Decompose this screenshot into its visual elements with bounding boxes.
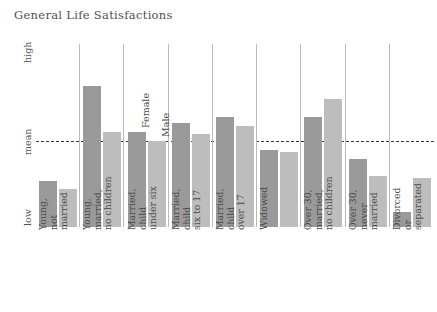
category-label-line: no children [324, 176, 335, 230]
category-label-line: over 17 [236, 189, 247, 230]
series-label-male: Male [160, 113, 171, 137]
category-label-line: child [137, 186, 148, 230]
category-label-line: Widowed [259, 187, 270, 230]
category-label-6: Widowed [259, 187, 270, 230]
category-label-line: married [59, 192, 70, 230]
group-separator [123, 44, 124, 227]
chart-container: General Life Satisfactions highmeanlowYo… [0, 0, 437, 312]
category-label-line: Married, [171, 189, 182, 230]
category-label-line: under six [148, 186, 159, 230]
bar-male-6 [280, 152, 298, 227]
series-label-female: Female [140, 93, 151, 128]
category-label-line: Married, [127, 186, 138, 230]
category-label-line: married [369, 189, 380, 230]
y-axis-tick-mean: mean [22, 129, 33, 155]
y-axis-tick-high: high [22, 42, 33, 63]
category-label-line: separated [413, 183, 424, 230]
category-label-5: Married,childover 17 [215, 189, 247, 230]
category-label-7: Over 30,married,no children [303, 176, 335, 230]
y-axis-tick-low: low [22, 209, 33, 226]
category-label-line: six to 17 [192, 189, 203, 230]
group-separator [212, 44, 213, 227]
category-label-4: Married,childsix to 17 [171, 189, 203, 230]
category-label-line: Divorced [392, 183, 403, 230]
group-separator [256, 44, 257, 227]
category-label-9: Divorcedorseparated [392, 183, 424, 230]
chart-title: General Life Satisfactions [14, 8, 173, 22]
category-label-8: Over 30,nevermarried [348, 189, 380, 230]
category-label-line: no children [103, 176, 114, 230]
group-separator [389, 44, 390, 227]
group-separator [345, 44, 346, 227]
category-label-line: Married, [215, 189, 226, 230]
category-label-line: Over 30, [348, 189, 359, 230]
category-label-3: Married,childunder six [127, 186, 159, 230]
category-label-2: Young,married,no children [82, 176, 114, 230]
category-label-1: Young,notmarried [38, 192, 70, 230]
